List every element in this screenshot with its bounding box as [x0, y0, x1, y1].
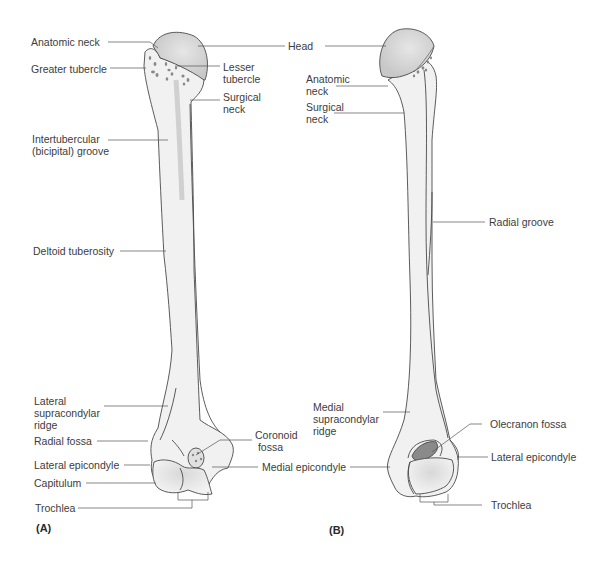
label-trochlea-a: Trochlea: [35, 502, 75, 514]
label-medial-epicondyle: Medial epicondyle: [262, 461, 346, 473]
label-deltoid-tuberosity: Deltoid tuberosity: [33, 245, 114, 257]
humerus-drawing: [0, 0, 604, 567]
label-lateral-supracondylar-ridge: Lateral supracondylar ridge: [34, 395, 100, 431]
label-lateral-epicondyle-a: Lateral epicondyle: [34, 459, 119, 471]
panel-label-b: (B): [329, 524, 344, 536]
bone-anterior-view: [144, 32, 233, 494]
label-radial-groove: Radial groove: [489, 216, 554, 228]
label-lesser-tubercle: Lesser tubercle: [223, 61, 260, 85]
humerus-figure: Anatomic neck Greater tubercle Head Less…: [0, 0, 604, 567]
label-surgical-neck-a: Surgical neck: [223, 91, 261, 115]
label-greater-tubercle-a: Greater tubercle: [31, 63, 107, 75]
label-lateral-epicondyle-b: Lateral epicondyle: [491, 451, 576, 463]
label-head: Head: [288, 40, 313, 52]
label-intertubercular-groove: Intertubercular (bicipital) groove: [32, 133, 109, 157]
panel-label-a: (A): [36, 522, 51, 534]
bone-posterior-view: [380, 29, 459, 497]
label-radial-fossa: Radial fossa: [34, 435, 92, 447]
label-capitulum: Capitulum: [34, 477, 81, 489]
label-medial-supracondylar-ridge: Medial supracondylar ridge: [313, 401, 379, 437]
label-trochlea-b: Trochlea: [491, 499, 531, 511]
label-anatomic-neck-b: Anatomic neck: [306, 73, 350, 97]
label-anatomic-neck-a: Anatomic neck: [31, 36, 100, 48]
label-coronoid-fossa: Coronoid fossa: [255, 429, 298, 453]
label-surgical-neck-b: Surgical neck: [306, 101, 344, 125]
label-olecranon-fossa: Olecranon fossa: [490, 418, 566, 430]
